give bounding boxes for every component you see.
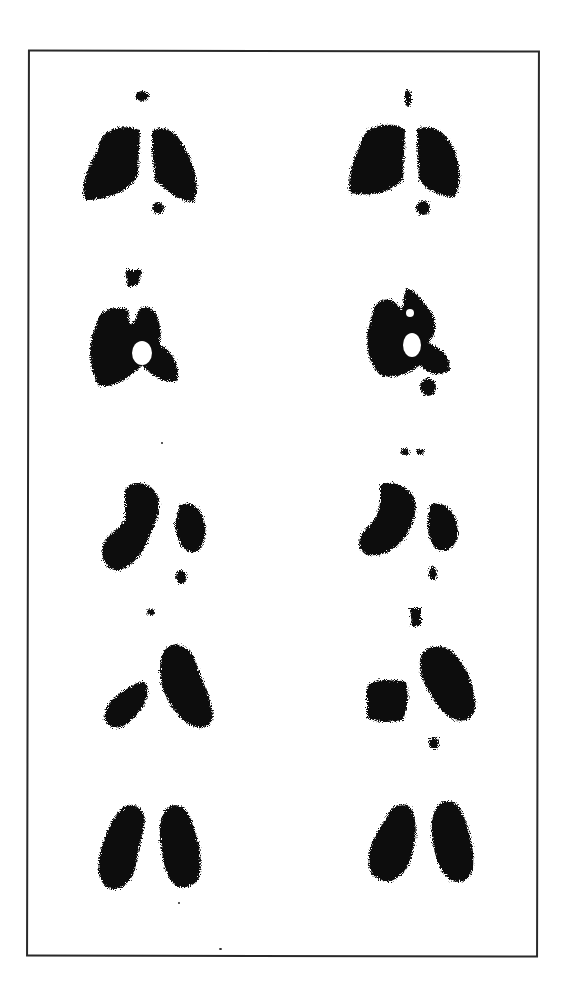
lung-perfusion-image: [335, 85, 485, 235]
lung-perfusion-image: [85, 785, 235, 935]
lung-perfusion-image: [85, 615, 235, 765]
lung-scan-r4c2: [355, 605, 505, 755]
lung-perfusion-image: [340, 265, 490, 415]
lung-perfusion-image: [85, 450, 235, 600]
lung-perfusion-image: [345, 445, 495, 595]
lung-perfusion-image: [70, 90, 220, 240]
lung-scan-r1c1: [70, 90, 220, 240]
lung-scan-r4c1: [85, 615, 235, 765]
lung-perfusion-image: [70, 265, 220, 415]
artifact-speck: [161, 442, 163, 444]
lung-perfusion-image: [355, 605, 505, 755]
lung-scan-r2c2: [340, 265, 490, 415]
lung-scan-r1c2: [335, 85, 485, 235]
lung-scan-r5c1: [85, 785, 235, 935]
artifact-speck: [219, 948, 222, 950]
lung-scan-r3c2: [345, 445, 495, 595]
lung-scan-r2c1: [70, 265, 220, 415]
lung-scan-r5c2: [355, 780, 505, 930]
lung-scan-r3c1: [85, 450, 235, 600]
artifact-speck: [178, 902, 180, 904]
lung-perfusion-image: [355, 780, 505, 930]
